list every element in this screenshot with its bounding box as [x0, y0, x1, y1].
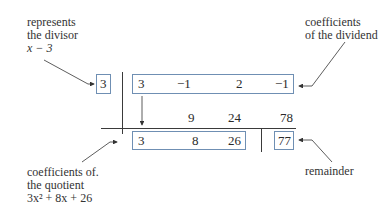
quotient-arrow-icon: [82, 142, 117, 162]
dividend-arrow-icon: [299, 42, 345, 86]
arrows-layer: [0, 0, 392, 203]
divisor-arrow-icon: [44, 60, 94, 84]
remainder-arrow-icon: [299, 140, 332, 162]
